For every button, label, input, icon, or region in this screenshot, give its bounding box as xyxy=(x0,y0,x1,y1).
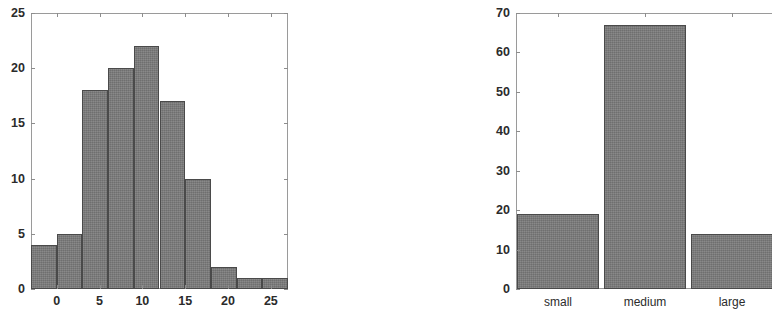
right-bar-chart-axes: 010203040506070 smallmediumlarge xyxy=(516,13,772,289)
x-category-label: small xyxy=(544,296,572,308)
y-tick-label: 40 xyxy=(496,125,510,138)
y-tick-mark-right xyxy=(284,13,288,14)
left-histogram-bars xyxy=(31,13,288,289)
x-tick-mark-top xyxy=(732,13,733,17)
category-bar xyxy=(517,214,599,289)
category-bar xyxy=(691,234,772,289)
left-histogram-axes: 0510152025 0510152025 xyxy=(31,13,288,289)
x-tick-label: 5 xyxy=(96,295,103,308)
x-tick-label: 10 xyxy=(135,295,149,308)
y-tick-label: 70 xyxy=(496,7,510,20)
x-tick-label: 0 xyxy=(53,295,60,308)
y-tick-mark xyxy=(31,179,35,180)
y-tick-label: 25 xyxy=(11,7,25,20)
histogram-bar xyxy=(108,68,134,289)
histogram-bar xyxy=(211,267,237,289)
histogram-bar xyxy=(134,46,160,289)
y-tick-mark-right xyxy=(284,289,288,290)
x-tick-mark xyxy=(185,285,186,289)
y-tick-label: 50 xyxy=(496,86,510,99)
y-tick-label: 0 xyxy=(503,283,510,296)
y-tick-mark xyxy=(516,131,520,132)
x-tick-mark xyxy=(271,285,272,289)
y-tick-mark xyxy=(516,210,520,211)
y-tick-mark xyxy=(31,234,35,235)
histogram-bar xyxy=(82,90,108,289)
y-tick-mark-right xyxy=(284,234,288,235)
x-category-label: medium xyxy=(624,296,667,308)
y-tick-mark xyxy=(31,289,35,290)
x-tick-mark xyxy=(228,285,229,289)
x-category-label: large xyxy=(719,296,746,308)
right-chart-bars xyxy=(516,13,772,289)
y-tick-mark-right xyxy=(284,68,288,69)
histogram-bar xyxy=(185,179,211,289)
x-tick-mark-top xyxy=(645,13,646,17)
x-tick-mark-top xyxy=(558,13,559,17)
x-tick-mark-top xyxy=(228,13,229,17)
y-tick-label: 10 xyxy=(496,243,510,256)
y-tick-mark xyxy=(516,92,520,93)
y-tick-label: 0 xyxy=(18,283,25,296)
y-tick-mark xyxy=(516,13,520,14)
x-tick-mark xyxy=(100,285,101,289)
histogram-bar xyxy=(262,278,288,289)
x-tick-mark-top xyxy=(100,13,101,17)
y-tick-mark xyxy=(31,123,35,124)
y-tick-mark xyxy=(516,289,520,290)
y-tick-label: 5 xyxy=(18,228,25,241)
y-tick-label: 20 xyxy=(11,62,25,75)
y-tick-mark xyxy=(516,171,520,172)
category-bar xyxy=(604,25,686,289)
y-tick-mark xyxy=(516,52,520,53)
histogram-bar xyxy=(237,278,263,289)
y-tick-mark xyxy=(516,250,520,251)
y-tick-label: 15 xyxy=(11,117,25,130)
x-tick-mark-top xyxy=(271,13,272,17)
histogram-bar xyxy=(160,101,186,289)
y-tick-mark xyxy=(31,13,35,14)
x-tick-mark xyxy=(142,285,143,289)
y-tick-label: 60 xyxy=(496,46,510,59)
x-tick-label: 15 xyxy=(178,295,192,308)
y-tick-label: 10 xyxy=(11,172,25,185)
y-tick-label: 20 xyxy=(496,204,510,217)
y-tick-mark-right xyxy=(284,179,288,180)
histogram-bar xyxy=(31,245,57,289)
x-tick-mark xyxy=(57,285,58,289)
x-tick-mark-top xyxy=(185,13,186,17)
histogram-bar xyxy=(57,234,83,289)
x-tick-label: 20 xyxy=(221,295,235,308)
x-tick-mark-top xyxy=(57,13,58,17)
x-tick-label: 25 xyxy=(264,295,278,308)
y-tick-mark xyxy=(31,68,35,69)
y-tick-label: 30 xyxy=(496,164,510,177)
x-tick-mark-top xyxy=(142,13,143,17)
y-tick-mark-right xyxy=(284,123,288,124)
